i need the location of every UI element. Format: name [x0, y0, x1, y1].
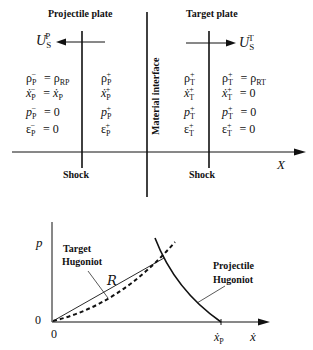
x-axis-arrow-icon — [294, 149, 306, 156]
eps-t-plus: εT+ — [184, 122, 198, 138]
xdot-p-minus: ẋP− = ẋP — [26, 86, 63, 102]
target-label-leader — [88, 271, 108, 298]
target-hugoniot-label-1: Target — [63, 244, 91, 254]
origin-y-label: 0 — [35, 314, 41, 326]
rayleigh-line — [53, 258, 164, 321]
projectile-shock-velocity: USP — [36, 32, 56, 50]
right-arrow-icon — [226, 40, 236, 47]
p-p-plus: pP+ — [101, 105, 116, 121]
material-interface-label: Material interface — [150, 58, 161, 135]
diagram-graphics — [0, 0, 313, 350]
p-t-plus: pT+ — [184, 105, 199, 121]
origin-x-label: 0 — [51, 328, 57, 340]
projectile-plate-title: Projectile plate — [48, 9, 113, 19]
p-axis-label: p — [36, 236, 43, 249]
left-shock-label: Shock — [63, 170, 89, 180]
target-hugoniot-label-2: Hugoniot — [62, 257, 102, 267]
right-shock-label: Shock — [189, 170, 215, 180]
p-p-minus: pP− = 0 — [26, 105, 60, 121]
projectile-hugoniot-label-2: Hugoniot — [213, 275, 253, 285]
xdot-p-plus: ẋP+ — [101, 86, 115, 102]
eps-p-plus: εP+ — [101, 122, 115, 138]
eps-t-unshocked: εT+ = 0 — [222, 122, 255, 138]
projectile-hugoniot-label-1: Projectile — [213, 261, 254, 271]
rayleigh-label: R — [107, 274, 117, 287]
xdot-axis-label: ẋ — [250, 330, 256, 343]
target-shock-velocity: UST — [239, 34, 260, 52]
xdot-t-unshocked: ẋT+ = 0 — [222, 86, 256, 102]
left-arrow-icon — [56, 39, 66, 46]
x-axis-label: X — [277, 158, 285, 171]
xdot-t-plus: ẋT+ — [184, 86, 199, 102]
p-t-unshocked: pT+ = 0 — [222, 105, 256, 121]
eps-p-minus: εP− = 0 — [26, 122, 59, 138]
target-plate-title: Target plate — [186, 9, 238, 19]
projectile-label-leader — [197, 286, 225, 303]
xp-marker-label: ẋP — [214, 331, 224, 346]
projectile-hugoniot-curve — [155, 238, 221, 322]
xdot-axis-arrow-icon — [258, 319, 270, 326]
